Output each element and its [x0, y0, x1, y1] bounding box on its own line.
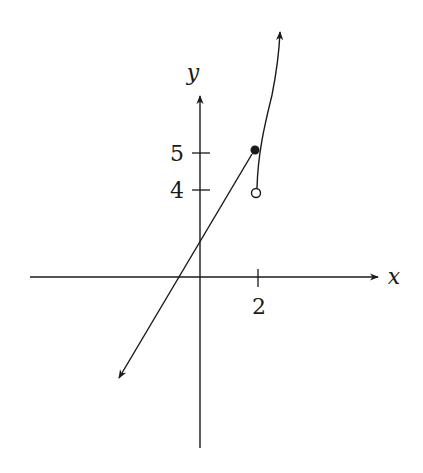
linear-piece	[119, 154, 252, 378]
closed-endpoint-dot	[251, 146, 260, 155]
y-tick-label-4: 4	[170, 178, 184, 203]
x-tick-label-2: 2	[252, 294, 266, 319]
open-endpoint-circle	[252, 189, 261, 198]
y-tick-label-5: 5	[170, 141, 184, 166]
curve-piece	[257, 32, 280, 188]
graph: y x 2 5 4	[0, 0, 423, 473]
x-axis-label: x	[388, 264, 401, 289]
y-axis-label: y	[186, 60, 200, 85]
